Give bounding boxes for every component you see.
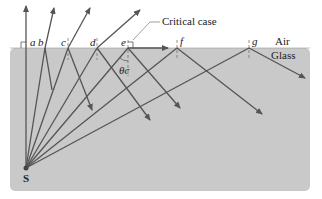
critical-case-leader	[133, 22, 160, 40]
label-air: Air	[275, 35, 290, 47]
label-c: c	[61, 36, 66, 48]
label-f: f	[180, 35, 185, 47]
label-source: S	[23, 172, 29, 184]
label-d: d	[90, 36, 96, 48]
label-glass: Glass	[271, 49, 295, 61]
label-g: g	[252, 35, 258, 47]
source-point	[24, 166, 29, 171]
diagram-canvas: a b c d e f g θc Critical case Air Glass…	[0, 0, 322, 199]
label-e: e	[121, 36, 126, 48]
label-theta-c: θc	[119, 64, 129, 76]
right-angle-mark-e	[128, 42, 133, 48]
right-angle-mark-a	[21, 42, 26, 48]
label-critical-case: Critical case	[162, 15, 217, 27]
label-a: a	[30, 36, 36, 48]
label-b: b	[38, 36, 44, 48]
